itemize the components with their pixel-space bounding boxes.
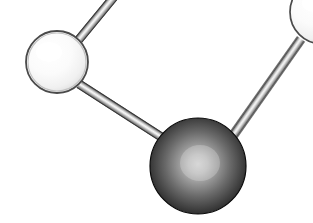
- atom-dark-center-highlight: [180, 145, 220, 181]
- atom-light-left-body: [26, 31, 88, 93]
- molecule-figure: Ball-and-stick molecular model showing a…: [0, 0, 313, 223]
- atom-light-left-highlight: [36, 42, 62, 62]
- molecule-canvas: Ball-and-stick molecular model fragment …: [0, 0, 313, 223]
- atom-light-left: [26, 31, 88, 93]
- atom-dark-center: [150, 118, 246, 214]
